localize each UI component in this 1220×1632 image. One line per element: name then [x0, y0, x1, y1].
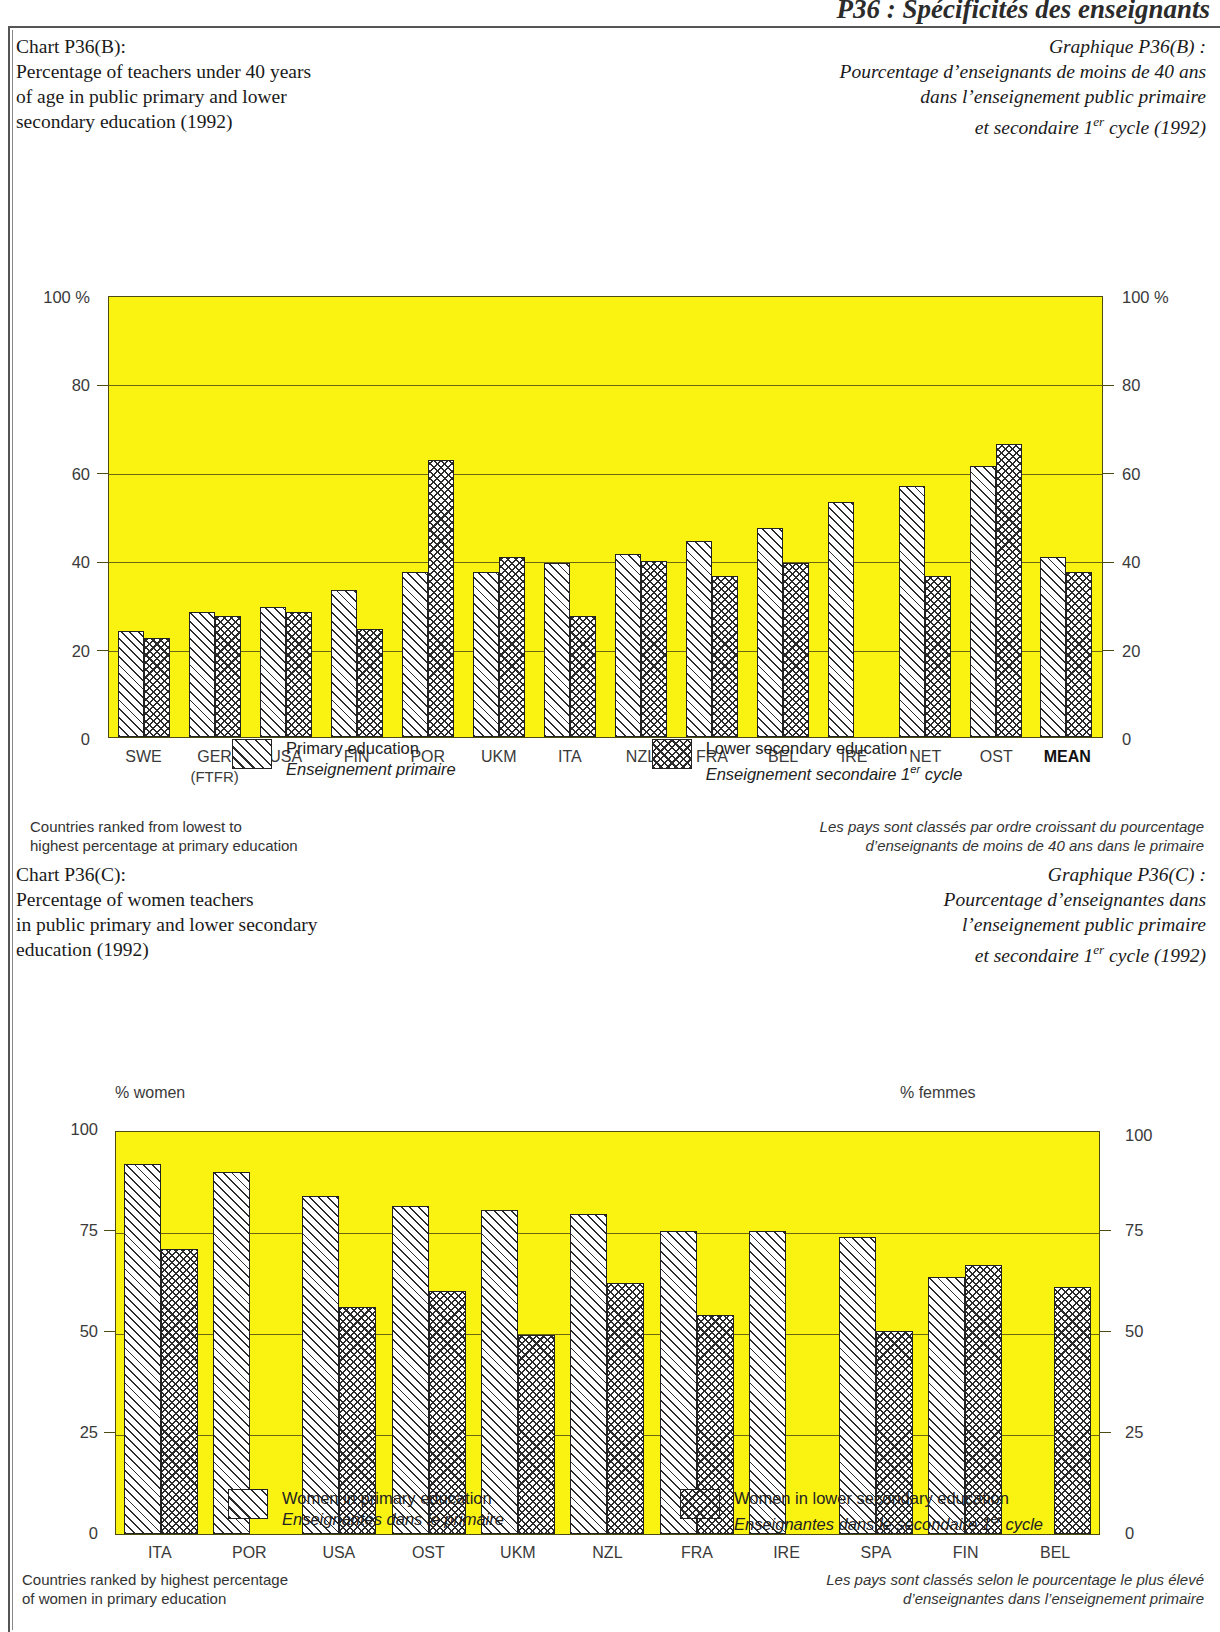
- chart-b-ytick-right-100: 100 %: [1122, 288, 1202, 307]
- chart-block-P36B: Chart P36(B):Percentage of teachers unde…: [0, 34, 1212, 752]
- legend-item: Primary educationEnseignement primaire: [232, 738, 456, 785]
- bar-secondary: [641, 561, 667, 737]
- bar-primary: [213, 1172, 250, 1534]
- chart-b-plotarea: 100 % 80 60 40 20 0 100 % 80 60 40 20 0 …: [0, 132, 1212, 752]
- chart-b-ytick-right-40: 40: [1122, 553, 1202, 572]
- chart-b-plot: [108, 296, 1103, 738]
- bar-primary: [402, 572, 428, 737]
- bar-primary: [302, 1196, 339, 1534]
- chart-c-ytick-left-25: 25: [30, 1423, 98, 1442]
- bar-group: [742, 1132, 831, 1534]
- chart-b-titles: Chart P36(B):Percentage of teachers unde…: [0, 34, 1212, 132]
- chart-c-legend: Women in primary educationEnseignantes d…: [0, 1488, 1212, 1535]
- chart-c-titles: Chart P36(C):Percentage of women teacher…: [0, 862, 1212, 960]
- chart-b-ytick-left-20: 20: [28, 642, 90, 661]
- chart-b-legend: Primary educationEnseignement primaireLo…: [0, 738, 1212, 785]
- legend-item: Lower secondary educationEnseignement se…: [652, 738, 963, 785]
- bar-primary: [1040, 557, 1066, 737]
- chart-b-ytick-left-40: 40: [28, 553, 90, 572]
- bar-primary: [615, 554, 641, 737]
- legend-swatch-primary-icon: [232, 739, 272, 769]
- bar-group: [109, 297, 180, 737]
- chart-b-ytick-right-80: 80: [1122, 376, 1202, 395]
- bar-group: [818, 297, 889, 737]
- bar-group: [464, 297, 535, 737]
- legend-swatch-secondary-icon: [652, 739, 692, 769]
- bar-group: [605, 297, 676, 737]
- chart-b-title-fr: Graphique P36(B) :Pourcentage d’enseigna…: [840, 34, 1206, 140]
- bar-group: [747, 297, 818, 737]
- bar-secondary: [428, 460, 454, 737]
- chart-block-P36C: Chart P36(C):Percentage of women teacher…: [0, 862, 1212, 1560]
- x-axis-label: UKM: [473, 1543, 563, 1563]
- bar-primary: [473, 572, 499, 737]
- chart-b-ytick-left-80: 80: [28, 376, 90, 395]
- bar-group: [535, 297, 606, 737]
- bar-secondary: [783, 563, 809, 737]
- bar-secondary: [925, 576, 951, 737]
- bar-primary: [828, 502, 854, 737]
- bar-primary: [331, 590, 357, 737]
- bar-primary: [118, 631, 144, 737]
- chart-b-ytick-left-60: 60: [28, 465, 90, 484]
- bar-group: [251, 297, 322, 737]
- legend-label: Women in lower secondary educationEnseig…: [734, 1488, 1043, 1535]
- bar-primary: [189, 612, 215, 737]
- x-axis-label: USA: [294, 1543, 384, 1563]
- x-axis-label: BEL: [1010, 1543, 1100, 1563]
- bar-secondary: [144, 638, 170, 737]
- bar-group: [295, 1132, 384, 1534]
- bar-primary: [570, 1214, 607, 1534]
- bar-secondary: [712, 576, 738, 737]
- bar-group: [960, 297, 1031, 737]
- bar-secondary: [570, 616, 596, 737]
- bar-group: [889, 297, 960, 737]
- bar-group: [676, 297, 747, 737]
- bar-secondary: [215, 616, 241, 737]
- bar-group: [1031, 297, 1102, 737]
- bar-secondary: [499, 557, 525, 737]
- x-axis-label: FIN: [921, 1543, 1011, 1563]
- bar-primary: [686, 541, 712, 737]
- bar-secondary: [1066, 572, 1092, 737]
- legend-item: Women in lower secondary educationEnseig…: [680, 1488, 1043, 1535]
- legend-swatch-primary-icon: [228, 1489, 268, 1519]
- bar-secondary: [286, 612, 312, 737]
- chart-c-note-fr: Les pays sont classés selon le pourcenta…: [524, 1570, 1204, 1608]
- bar-group: [393, 297, 464, 737]
- bar-group: [563, 1132, 652, 1534]
- running-head: P36 : Spécificités des enseignants: [0, 0, 1210, 25]
- bar-group: [384, 1132, 473, 1534]
- chart-c-ylabel-left: % women: [115, 1084, 185, 1102]
- legend-label: Women in primary educationEnseignantes d…: [282, 1488, 504, 1530]
- bar-primary: [260, 607, 286, 737]
- x-axis-label: OST: [384, 1543, 474, 1563]
- bar-primary: [481, 1210, 518, 1534]
- chart-c-ytick-left-75: 75: [30, 1221, 98, 1240]
- legend-label: Lower secondary educationEnseignement se…: [706, 738, 963, 785]
- bar-primary: [757, 528, 783, 737]
- chart-b-ytick-right-20: 20: [1122, 642, 1202, 661]
- chart-c-ytick-right-25: 25: [1125, 1423, 1195, 1442]
- bar-primary: [392, 1206, 429, 1534]
- chart-c-ytick-right-50: 50: [1125, 1322, 1195, 1341]
- bar-group: [1010, 1132, 1099, 1534]
- legend-item: Women in primary educationEnseignantes d…: [228, 1488, 504, 1535]
- bar-group: [116, 1132, 205, 1534]
- chart-c-ytick-left-50: 50: [30, 1322, 98, 1341]
- x-axis-label: IRE: [742, 1543, 832, 1563]
- x-axis-label: POR: [205, 1543, 295, 1563]
- bar-primary: [970, 466, 996, 737]
- bar-primary: [124, 1164, 161, 1534]
- bar-group: [831, 1132, 920, 1534]
- bar-group: [652, 1132, 741, 1534]
- x-axis-label: SPA: [831, 1543, 921, 1563]
- chart-b-bars: [109, 297, 1102, 737]
- chart-c-ylabel-right: % femmes: [900, 1084, 976, 1102]
- chart-c-plotarea: % women % femmes 100 75 50 25 0 100 75 5…: [0, 960, 1212, 1560]
- x-axis-label: NZL: [563, 1543, 653, 1563]
- chart-c-ytick-left-100: 100: [30, 1120, 98, 1139]
- bar-group: [920, 1132, 1009, 1534]
- chart-c-plot: [115, 1131, 1100, 1535]
- legend-swatch-secondary-icon: [680, 1489, 720, 1519]
